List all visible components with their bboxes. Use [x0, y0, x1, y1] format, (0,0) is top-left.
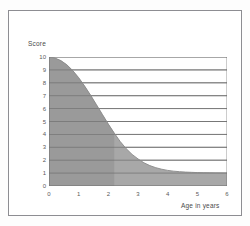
y-tick-label: 1 [43, 170, 46, 176]
x-tick-label: 5 [196, 191, 199, 197]
y-tick-label: 7 [43, 93, 46, 99]
y-tick-label: 5 [43, 119, 46, 125]
y-tick-label: 10 [39, 54, 46, 60]
y-tick-label: 9 [43, 67, 46, 73]
y-tick-label: 4 [43, 131, 46, 137]
chart-page: Score Age in years 012345678910 0123456 [0, 0, 250, 226]
x-tick-label: 3 [136, 191, 139, 197]
x-tick-label: 2 [107, 191, 110, 197]
x-tick-label: 4 [166, 191, 169, 197]
x-tick-label: 0 [47, 191, 50, 197]
plot-area: 012345678910 0123456 [49, 57, 227, 186]
figure-frame: Score Age in years 012345678910 0123456 [8, 10, 242, 216]
y-tick-label: 2 [43, 157, 46, 163]
y-tick-label: 8 [43, 80, 46, 86]
x-axis-title: Age in years [181, 202, 220, 209]
y-tick-label: 0 [43, 183, 46, 189]
x-tick-label: 6 [225, 191, 228, 197]
y-tick-label: 6 [43, 106, 46, 112]
area-fill [49, 57, 227, 186]
y-tick-label: 3 [43, 144, 46, 150]
chart-svg [49, 57, 227, 186]
x-tick-label: 1 [77, 191, 80, 197]
y-axis-title: Score [28, 40, 46, 47]
